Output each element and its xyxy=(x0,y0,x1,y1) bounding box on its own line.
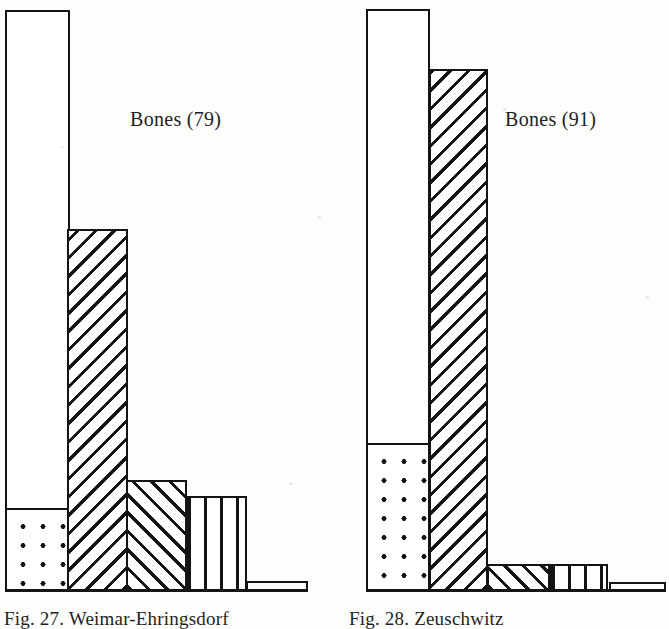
figure-plate: Bones (79) Fig. 27. Weimar-Ehringsdorf B… xyxy=(0,0,669,629)
bar-right-1 xyxy=(366,9,430,591)
scan-speckle xyxy=(503,108,506,111)
bar-left-4 xyxy=(186,496,247,591)
baseline-right xyxy=(366,589,666,592)
bar-left-1 xyxy=(5,10,70,591)
scan-speckle xyxy=(318,216,321,219)
figure-zeuschwitz: Bones (91) Fig. 28. Zeuschwitz xyxy=(335,0,669,629)
series-label-right: Bones (91) xyxy=(505,108,596,131)
figure-caption-right: Fig. 28. Zeuschwitz xyxy=(349,608,504,629)
scan-speckle xyxy=(61,146,63,148)
figure-caption-left: Fig. 27. Weimar-Ehringsdorf xyxy=(4,608,229,629)
bar-right-4 xyxy=(550,564,608,591)
figure-weimar-ehringsdorf: Bones (79) Fig. 27. Weimar-Ehringsdorf xyxy=(0,0,335,629)
bar-right-2 xyxy=(429,69,488,591)
bar-left-2 xyxy=(67,229,128,591)
scan-speckle xyxy=(289,482,292,485)
bar-left-3 xyxy=(126,480,187,591)
bar-right-3 xyxy=(487,564,550,591)
bar-right-1-dotted-base xyxy=(368,443,428,589)
bar-left-1-dotted-base xyxy=(7,508,68,589)
scan-speckle xyxy=(646,296,649,299)
series-label-left: Bones (79) xyxy=(130,108,221,131)
baseline-left xyxy=(5,589,308,592)
